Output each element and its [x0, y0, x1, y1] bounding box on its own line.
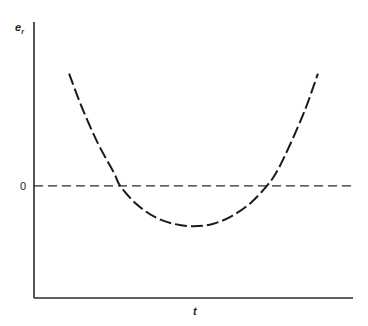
x-axis-label: t — [193, 305, 198, 317]
series-line-e-r — [69, 74, 318, 227]
y-axis-label: er — [15, 21, 25, 35]
plot-area — [34, 22, 353, 298]
y-axis-label-subscript: r — [21, 28, 25, 35]
chart: er 0 t — [0, 0, 368, 326]
y-tick-label-0: 0 — [20, 180, 26, 192]
